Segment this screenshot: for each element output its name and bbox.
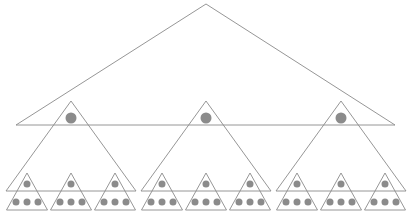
leaf-top-dot <box>203 181 210 188</box>
leaf-bottom-dot <box>258 199 265 206</box>
leaf-top-dot <box>247 181 254 188</box>
leaf-bottom-dot <box>192 199 199 206</box>
mid-level-triangle-group <box>6 101 406 191</box>
leaf-bottom-dot <box>112 199 119 206</box>
leaf-bottom-dot <box>247 199 254 206</box>
leaf-bottom-dot <box>214 199 221 206</box>
leaf-bottom-dot <box>24 199 31 206</box>
leaf-bottom-dot <box>148 199 155 206</box>
leaf-bottom-dot <box>294 199 301 206</box>
leaf-bottom-dot <box>35 199 42 206</box>
leaf-bottom-dot <box>79 199 86 206</box>
leaf-bottom-dot <box>57 199 64 206</box>
leaf-bottom-dot <box>159 199 166 206</box>
leaf-bottom-dot <box>170 199 177 206</box>
mid-node-dot <box>201 113 212 124</box>
leaf-top-dot <box>338 181 345 188</box>
leaf-bottom-dot <box>371 199 378 206</box>
top-level-triangle-group <box>16 4 395 125</box>
leaf-top-dot <box>159 181 166 188</box>
leaf-bottom-dot <box>327 199 334 206</box>
leaf-bottom-dot <box>393 199 400 206</box>
mid-node-dot <box>66 113 77 124</box>
leaf-bottom-dot <box>382 199 389 206</box>
leaf-bottom-dot <box>68 199 75 206</box>
leaf-bottom-dot <box>203 199 210 206</box>
leaf-bottom-dot <box>101 199 108 206</box>
leaf-top-dot <box>24 181 31 188</box>
leaf-top-dot <box>382 181 389 188</box>
leaf-top-dot <box>112 181 119 188</box>
leaf-bottom-dot <box>13 199 20 206</box>
leaf-bottom-dot <box>305 199 312 206</box>
leaf-bottom-dot <box>123 199 130 206</box>
leaf-bottom-dot <box>283 199 290 206</box>
leaf-level-triangle-group <box>7 173 406 210</box>
triangle-hierarchy-diagram <box>0 0 412 220</box>
leaf-bottom-dot <box>349 199 356 206</box>
top-triangle <box>16 4 395 125</box>
leaf-top-dot <box>294 181 301 188</box>
mid-node-dot <box>336 113 347 124</box>
leaf-bottom-dot <box>236 199 243 206</box>
leaf-bottom-dot <box>338 199 345 206</box>
leaf-top-dot <box>68 181 75 188</box>
